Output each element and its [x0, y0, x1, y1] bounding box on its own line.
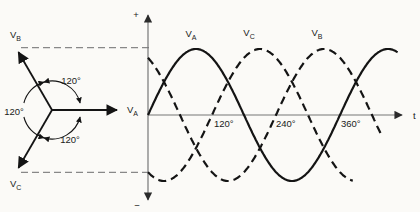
- tick-label-360: 360°: [341, 118, 361, 129]
- t-axis-label: t: [413, 110, 416, 121]
- phasor-diagram: 120° 120° 120° VB VA VC: [4, 29, 151, 191]
- three-phase-figure: 120° 120° 120° VB VA VC + − t 120° 240° …: [0, 0, 420, 212]
- curve-label-vb: VB: [311, 27, 322, 40]
- tick-label-120: 120°: [214, 118, 234, 129]
- phasor-label-vc: VC: [10, 178, 21, 191]
- minus-label: −: [134, 200, 140, 211]
- angle-label-bottom: 120°: [60, 134, 80, 145]
- plus-label: +: [133, 9, 139, 20]
- phasor-label-va: VA: [127, 104, 138, 117]
- figure-canvas: 120° 120° 120° VB VA VC + − t 120° 240° …: [0, 0, 420, 212]
- phasor-label-vb: VB: [10, 29, 21, 42]
- curve-label-vc: VC: [243, 27, 254, 40]
- waveform-plot: + − t 120° 240° 360° VA VC VB: [133, 9, 416, 211]
- angle-label-left: 120°: [4, 106, 24, 117]
- angle-label-top: 120°: [61, 75, 81, 86]
- curve-label-va: VA: [185, 28, 196, 41]
- tick-label-240: 240°: [276, 118, 296, 129]
